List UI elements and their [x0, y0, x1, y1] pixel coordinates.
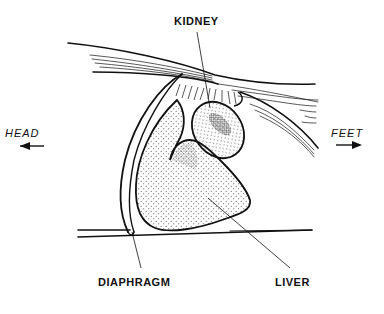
abdominal-wall	[78, 230, 312, 237]
diaphragm-label: DIAPHRAGM	[98, 276, 170, 288]
liver-label: LIVER	[275, 276, 310, 288]
anatomy-diagram	[0, 0, 384, 314]
diaphragm-leader	[132, 232, 141, 268]
feet-direction-label: FEET	[331, 127, 363, 139]
arrow-right-icon	[336, 141, 362, 149]
kidney-label: KIDNEY	[174, 15, 219, 27]
arrow-left-icon	[20, 142, 44, 150]
head-direction-label: HEAD	[5, 127, 40, 139]
